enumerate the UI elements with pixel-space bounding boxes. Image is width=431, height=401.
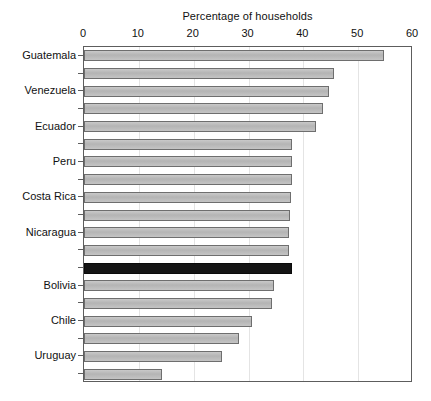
- bar-7: [84, 174, 292, 185]
- x-tick-label-10: 10: [132, 27, 144, 39]
- bar-3: [84, 103, 323, 114]
- category-label-peru: Peru: [53, 155, 76, 167]
- category-label-costa-rica: Costa Rica: [22, 190, 76, 202]
- bar-6: [84, 156, 292, 167]
- category-label-ecuador: Ecuador: [35, 120, 76, 132]
- category-label-nicaragua: Nicaragua: [26, 226, 76, 238]
- x-tick-label-0: 0: [80, 27, 86, 39]
- bar-10: [84, 227, 289, 238]
- bar-15: [84, 316, 252, 327]
- bar-17: [84, 351, 222, 362]
- x-tick-label-60: 60: [406, 27, 418, 39]
- bar-4: [84, 121, 316, 132]
- bar-11: [84, 245, 289, 256]
- bar-12: [84, 263, 292, 274]
- x-tick-label-40: 40: [296, 27, 308, 39]
- chart-title: Percentage of households: [83, 10, 412, 22]
- gridline-50: [358, 47, 359, 381]
- bar-13: [84, 280, 274, 291]
- bar-8: [84, 192, 291, 203]
- x-tick-label-20: 20: [187, 27, 199, 39]
- category-label-guatemala: Guatemala: [22, 49, 76, 61]
- bar-5: [84, 139, 292, 150]
- bar-16: [84, 333, 239, 344]
- bar-1: [84, 68, 334, 79]
- category-label-uruguay: Uruguay: [34, 349, 76, 361]
- x-tick-label-30: 30: [241, 27, 253, 39]
- category-label-venezuela: Venezuela: [25, 84, 76, 96]
- category-label-chile: Chile: [51, 314, 76, 326]
- category-label-bolivia: Bolivia: [44, 279, 76, 291]
- plot-area: [83, 46, 412, 382]
- bar-14: [84, 298, 272, 309]
- bar-2: [84, 86, 329, 97]
- gridline-40: [303, 47, 304, 381]
- x-tick-label-50: 50: [351, 27, 363, 39]
- bar-chart: Percentage of households 0102030405060 G…: [0, 0, 431, 401]
- bar-18: [84, 369, 162, 380]
- bar-9: [84, 210, 290, 221]
- bar-0: [84, 50, 384, 61]
